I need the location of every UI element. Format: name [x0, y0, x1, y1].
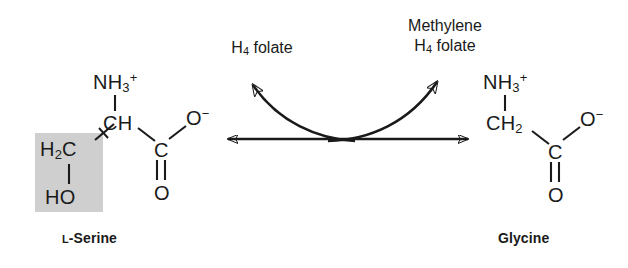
serine-carboxylate-oxygen: O− — [186, 107, 210, 128]
glycine-ch-text: CH — [486, 112, 515, 134]
serine-side-chain-carbon: H2C — [40, 139, 77, 161]
glycine-nh-subscript: 3 — [512, 80, 519, 95]
serine-nh-subscript: 3 — [122, 80, 129, 95]
serine-caption-l: L — [62, 233, 69, 245]
serine-oxyanion-charge: − — [202, 106, 210, 121]
glycine-caption: Glycine — [498, 231, 549, 245]
serine-carbonyl-double-bond — [157, 160, 165, 180]
glycine-c-o-single-bond — [563, 127, 580, 140]
glycine-oxyanion-charge: − — [596, 107, 604, 122]
glycine-carbonyl-double-bond — [551, 162, 559, 182]
glycine-alpha-carbon: CH2 — [486, 113, 523, 135]
serine-ho-text: HO — [45, 186, 75, 208]
serine-nh-text: NH — [93, 71, 122, 93]
serine-carbonyl-o-text: O — [154, 182, 170, 204]
glycine-carbonyl-oxygen: O — [548, 185, 564, 205]
serine-carboxyl-carbon: C — [154, 140, 169, 160]
serine-h2c-h: H — [40, 138, 55, 160]
methylene-word: Methylene — [408, 17, 482, 34]
h4-folate-in-arrow — [253, 85, 355, 141]
glycine-oxyanion-o: O — [580, 108, 596, 130]
serine-h2c-c: C — [62, 138, 77, 160]
glycine-caption-text: Glycine — [498, 230, 549, 246]
glycine-carboxylate-oxygen: O− — [580, 108, 604, 129]
h4-folate-rest: folate — [249, 39, 293, 56]
reagent-label-methylene-h4-folate: Methylene H4 folate — [378, 16, 512, 57]
glycine-amino-group: NH3+ — [483, 71, 528, 94]
reaction-diagram: H4 folate Methylene H4 folate NH3+ CH H2… — [0, 0, 628, 268]
serine-nh-charge: + — [130, 70, 138, 85]
serine-ch-text: CH — [103, 112, 132, 134]
serine-carboxyl-c-text: C — [154, 139, 169, 161]
serine-oxyanion-o: O — [186, 107, 202, 129]
h4-folate-h: H — [231, 39, 243, 56]
serine-carbonyl-oxygen: O — [154, 183, 170, 203]
serine-caption: L-Serine — [62, 231, 117, 245]
methylene-h4-rest: folate — [432, 37, 476, 54]
glycine-nh-charge: + — [520, 70, 528, 85]
serine-caption-rest: -Serine — [69, 230, 117, 246]
serine-amino-group: NH3+ — [93, 71, 138, 94]
reagent-label-h4-folate: H4 folate — [207, 38, 317, 59]
serine-h2c-subscript: 2 — [55, 147, 62, 162]
glycine-carboxyl-carbon: C — [548, 142, 563, 162]
serine-ca-cooh-bond — [138, 128, 155, 141]
glycine-ca-cooh-bond — [532, 131, 549, 144]
serine-c-o-single-bond — [169, 126, 186, 139]
methylene-h4-h: H — [414, 37, 426, 54]
glycine-carboxyl-c-text: C — [548, 141, 563, 163]
methylene-h4-folate-out-arrow — [328, 82, 437, 141]
glycine-nh-text: NH — [483, 71, 512, 93]
serine-alpha-carbon: CH — [103, 113, 132, 133]
glycine-ch-subscript: 2 — [515, 121, 522, 136]
serine-hydroxyl-group: HO — [45, 187, 75, 207]
glycine-carbonyl-o-text: O — [548, 184, 564, 206]
